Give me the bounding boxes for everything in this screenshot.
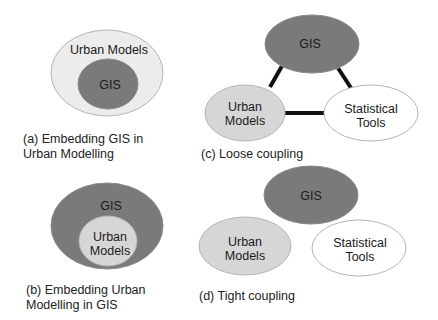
caption-c-line1: (c) Loose coupling: [201, 147, 303, 162]
urban-models-label-2: Models: [90, 244, 130, 258]
caption-a: (a) Embedding GIS in Urban Modelling: [23, 132, 143, 162]
urban-models-label-2: Models: [225, 249, 265, 263]
caption-b-line2: Modelling in GIS: [26, 298, 146, 313]
gis-label: GIS: [99, 78, 121, 92]
link-gis-stat: [338, 68, 351, 88]
caption-b-line1: (b) Embedding Urban: [26, 283, 146, 298]
statistical-tools-label-2: Tools: [345, 250, 374, 264]
urban-models-label-1: Urban: [228, 100, 262, 114]
urban-models-label: Urban Models: [70, 43, 148, 57]
gis-label: GIS: [299, 37, 321, 51]
statistical-tools-label-2: Tools: [356, 116, 385, 130]
gis-label: GIS: [300, 189, 322, 203]
caption-d: (d) Tight coupling: [199, 289, 295, 304]
link-gis-urban: [270, 66, 282, 87]
panel-a: Urban Models GIS: [51, 30, 163, 116]
caption-d-line1: (d) Tight coupling: [199, 289, 295, 304]
panel-b: GIS Urban Models: [51, 183, 163, 269]
caption-a-line1: (a) Embedding GIS in: [23, 132, 143, 147]
caption-c: (c) Loose coupling: [201, 147, 303, 162]
panel-c: GIS Urban Models Statistical Tools: [205, 15, 418, 141]
gis-label: GIS: [100, 199, 122, 213]
statistical-tools-label-1: Statistical: [333, 236, 387, 250]
urban-models-label-2: Models: [225, 114, 265, 128]
panel-d: GIS Urban Models Statistical Tools: [199, 166, 406, 276]
statistical-tools-label-1: Statistical: [344, 102, 398, 116]
caption-a-line2: Urban Modelling: [23, 147, 143, 162]
urban-models-label-1: Urban: [93, 230, 127, 244]
caption-b: (b) Embedding Urban Modelling in GIS: [26, 283, 146, 313]
urban-models-label-1: Urban: [228, 235, 262, 249]
